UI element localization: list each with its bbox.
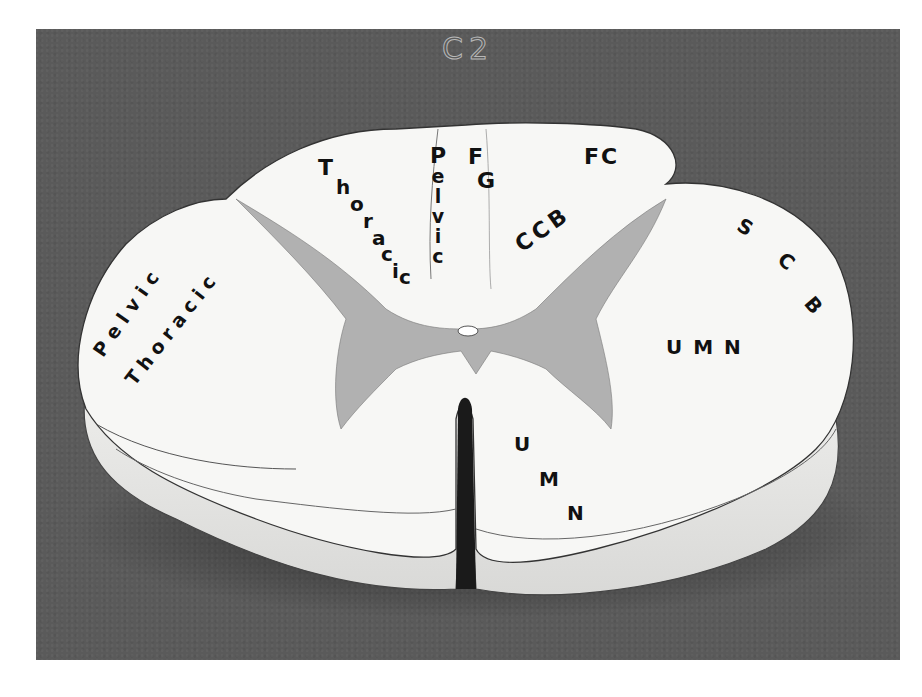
label-fc: FC (584, 146, 619, 168)
label-char: o (350, 194, 364, 214)
label-char: i (392, 261, 399, 281)
label-char: h (336, 177, 350, 197)
label-umn-ventral-u: U (514, 434, 530, 454)
label-fg-f: F (468, 146, 483, 168)
label-char: c (399, 267, 411, 287)
label-dorsal-thoracic: T (318, 157, 333, 179)
label-umn-lateral: U M N (666, 337, 741, 357)
label-umn-ventral-n: N (567, 503, 584, 523)
label-umn-ventral-m: M (539, 469, 559, 489)
label-dorsal-pelvic: Pelvic (429, 146, 447, 266)
label-fg-g: G (477, 170, 495, 192)
figure-panel: C2 T (36, 29, 900, 660)
